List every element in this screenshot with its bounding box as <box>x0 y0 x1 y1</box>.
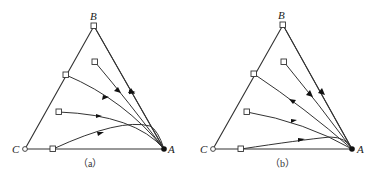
vertex-a-label: A <box>356 143 364 155</box>
arrow-icon <box>97 132 104 136</box>
panel-b: B C A （b） <box>200 9 364 169</box>
residue-curve-5 <box>53 124 164 149</box>
start-point-marker <box>251 71 257 77</box>
start-point-marker <box>56 109 62 115</box>
vertex-a-marker <box>349 146 355 152</box>
panel-caption: （a） <box>78 158 102 169</box>
vertex-c-label: C <box>200 143 208 155</box>
residue-curve-5 <box>241 137 352 149</box>
triangle-edges <box>25 26 164 149</box>
vertex-b-label: B <box>90 10 97 22</box>
residue-curve-1 <box>283 25 352 149</box>
start-point-marker <box>63 72 69 78</box>
arrow-icon <box>114 87 121 93</box>
vertex-a-marker <box>161 146 167 152</box>
vertex-b-marker <box>280 22 286 28</box>
vertex-a-label: A <box>167 143 175 155</box>
panel-caption: （b） <box>270 158 295 169</box>
residue-curve-2 <box>95 62 164 149</box>
start-point-marker <box>50 146 56 152</box>
vertex-c-label: C <box>12 143 20 155</box>
vertex-c-marker <box>211 147 216 152</box>
figure: B C A （a） B C A （b） <box>0 0 375 180</box>
residue-curve-2 <box>284 62 352 149</box>
arrow-icon <box>96 114 102 118</box>
vertex-c-marker <box>23 147 28 152</box>
arrow-icon <box>128 88 135 94</box>
start-point-marker <box>238 146 244 152</box>
start-point-marker <box>92 59 98 65</box>
start-point-marker <box>281 59 287 65</box>
panel-a: B C A （a） <box>12 10 175 169</box>
vertex-b-label: B <box>278 9 285 21</box>
arrow-icon <box>291 119 297 123</box>
vertex-b-marker <box>91 23 97 29</box>
residue-curve-1 <box>94 26 164 149</box>
residue-curve-4 <box>247 112 352 149</box>
triangle-edges <box>213 25 352 149</box>
start-point-marker <box>244 109 250 115</box>
